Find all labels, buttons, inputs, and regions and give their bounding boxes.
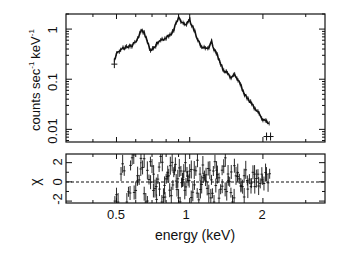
ytick-label-0.1: 0.1 [45,73,60,91]
y-axis-title-residual: χ [27,178,43,186]
ytick-label-0: 0 [50,178,65,185]
residual-data-points [114,154,271,203]
residual-panel-frame [66,154,325,203]
spectrum-figure: 1 0.1 0.01 2 0 -2 counts sec-1keV-1 χ 0.… [0,0,342,256]
xtick-label-1: 1 [182,207,189,222]
ytick-label-0.01: 0.01 [45,118,60,143]
xtick-label-2: 2 [258,207,265,222]
spectrum-data-points [111,15,273,141]
x-axis-title: energy (keV) [155,227,235,243]
y-axis-title-spectrum: counts sec-1keV-1 [27,29,43,131]
ytick-label-2: 2 [50,158,65,165]
ytick-label-minus2: -2 [50,193,65,205]
ytick-label-1: 1 [45,26,60,33]
xtick-label-0.5: 0.5 [107,207,125,222]
